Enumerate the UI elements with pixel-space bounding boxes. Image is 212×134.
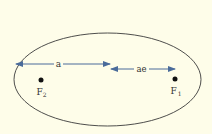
semi-major-axis-arrow: a [16,59,110,69]
focus-f2-sub: 2 [43,91,47,98]
label-ae: ae [136,64,146,74]
label-a: a [56,59,62,69]
diagram-canvas: a ae F2 F1 [0,0,212,134]
focus-dot-icon [39,78,44,83]
focus-f1: F1 [171,77,182,97]
focus-f1-label: F [171,86,177,96]
focal-distance-arrow: ae [111,64,175,74]
focus-dot-icon [173,77,178,82]
svg-text:F2: F2 [37,87,47,98]
focus-f1-sub: 1 [178,90,182,97]
focus-f2: F2 [37,78,47,98]
svg-text:F1: F1 [171,86,182,97]
ellipse-diagram: a ae F2 F1 [0,0,212,134]
